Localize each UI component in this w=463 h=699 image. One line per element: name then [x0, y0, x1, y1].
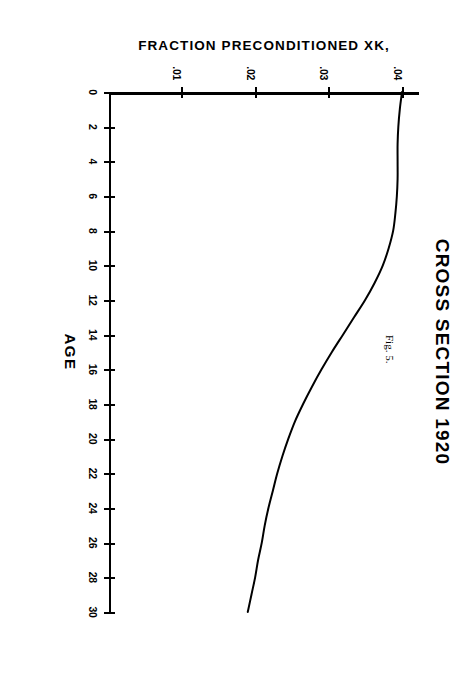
x-tick-label: 14	[87, 329, 99, 340]
y-tick-label: .04	[392, 66, 404, 80]
x-tick-label: 18	[87, 398, 99, 409]
y-tick-label: .01	[170, 66, 182, 80]
x-tick-label: 20	[87, 433, 99, 444]
figure-page: CROSS SECTION 1920 024681012141618202224…	[0, 0, 463, 699]
x-tick-label: 22	[87, 467, 99, 478]
rotated-figure-stage: CROSS SECTION 1920 024681012141618202224…	[17, 30, 447, 670]
data-curve-svg	[109, 92, 419, 612]
x-tick-label: 8	[87, 227, 99, 233]
x-tick-label: 16	[87, 363, 99, 374]
x-tick-label: 4	[87, 158, 99, 164]
figure-caption: Fig. 5.	[384, 335, 396, 363]
x-tick-label: 30	[87, 606, 99, 617]
y-tick-label: .03	[318, 66, 330, 80]
x-tick-label: 12	[87, 294, 99, 305]
x-tick-label: 6	[87, 193, 99, 199]
x-tick-label: 28	[87, 571, 99, 582]
x-tick-label: 24	[87, 502, 99, 513]
chart-title: CROSS SECTION 1920	[431, 92, 453, 612]
x-tick-label: 26	[87, 537, 99, 548]
x-tick-label: 2	[87, 123, 99, 129]
x-tick-label: 0	[87, 89, 99, 95]
y-tick-label: .02	[244, 66, 256, 80]
x-tick-label: 10	[87, 259, 99, 270]
series-line-xk	[247, 92, 401, 612]
plot-area: 024681012141618202224262830 .01.02.03.04	[109, 92, 419, 612]
y-axis-title: FRACTION PRECONDITIONED XK,	[109, 38, 419, 53]
x-axis-title: AGE	[62, 92, 79, 612]
